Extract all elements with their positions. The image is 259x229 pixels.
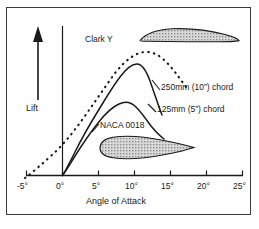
series-label-chord-125mm: 125mm (5”) chord bbox=[157, 104, 225, 114]
x-tick-label-25: 25° bbox=[233, 181, 246, 191]
series-label-chord-250mm: 250mm (10”) chord bbox=[161, 82, 233, 92]
airfoil-lift-chart-figure: Lift Clark Y 250mm (10”) chord 125mm (5”… bbox=[0, 0, 259, 229]
y-axis-label: Lift bbox=[26, 103, 38, 113]
series-label-clark-y: Clark Y bbox=[85, 34, 113, 44]
clark-y-airfoil bbox=[140, 29, 239, 42]
lift-arrow-icon bbox=[33, 26, 43, 100]
x-tick-label-minus5: -5° bbox=[17, 181, 28, 191]
x-axis-label: Angle of Attack bbox=[86, 196, 146, 206]
plot-canvas bbox=[0, 0, 259, 229]
naca-0018-airfoil bbox=[100, 136, 194, 158]
x-tick-label-5: 5° bbox=[92, 181, 100, 191]
x-tick-label-10: 10° bbox=[125, 181, 138, 191]
x-tick-label-0: 0° bbox=[56, 181, 64, 191]
x-tick-label-15: 15° bbox=[161, 181, 174, 191]
series-label-naca-0018: NACA 0018 bbox=[100, 120, 144, 130]
x-tick-label-20: 20° bbox=[197, 181, 210, 191]
leader-line-chord-125 bbox=[148, 104, 156, 112]
